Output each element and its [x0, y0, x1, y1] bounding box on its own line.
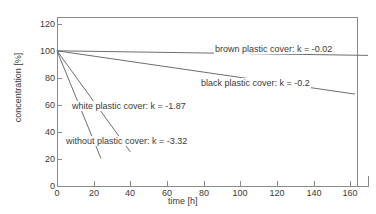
series-label-black-plastic-cover: black plastic cover: k = -0.2: [200, 78, 311, 88]
series-label-white-plastic-cover: white plastic cover: k = -1.87: [71, 101, 187, 111]
x-axis-end-cap: [368, 176, 369, 187]
x-tick-label-40: 40: [115, 189, 145, 198]
series-label-brown-plastic-cover: brown plastic cover: k = -0.02: [214, 44, 333, 54]
x-tick-label-20: 20: [79, 189, 109, 198]
x-tick-label-0: 0: [42, 189, 72, 198]
y-tick-label-60: 60: [45, 101, 55, 110]
x-axis-line: [57, 186, 369, 187]
x-tick-label-140: 140: [299, 189, 329, 198]
y-tick-label-120: 120: [40, 20, 55, 29]
x-tick-label-120: 120: [262, 189, 292, 198]
chart-figure: 0 20 40 60 80 100 120 0 20 40 60 80 100 …: [0, 0, 376, 214]
y-tick-label-100: 100: [40, 47, 55, 56]
x-axis-title: time [h]: [168, 197, 198, 206]
y-tick-label-40: 40: [45, 128, 55, 137]
y-tick-label-20: 20: [45, 155, 55, 164]
x-tick-label-100: 100: [225, 189, 255, 198]
y-axis-title: concentration [%]: [14, 28, 23, 148]
series-label-without-plastic-cover: without plastic cover: k = -3.32: [65, 136, 188, 146]
y-tick-0: [57, 186, 62, 187]
y-tick-label-80: 80: [45, 74, 55, 83]
x-tick-label-160: 160: [335, 189, 365, 198]
